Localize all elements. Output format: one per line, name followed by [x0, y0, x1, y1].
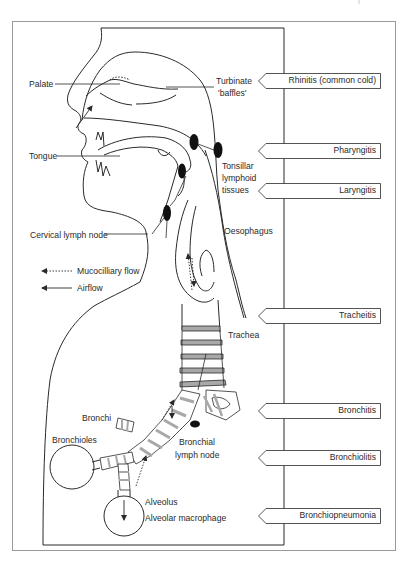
label-oesophagus: Oesophagus [224, 226, 273, 236]
disease-tag-tracheitis: Tracheitis [258, 308, 381, 323]
label-tonsillar-1: Tonsillar [222, 161, 254, 171]
disease-label: Bronchiopneumonia [300, 510, 376, 520]
label-palate: Palate [29, 79, 53, 89]
trachea-rings [180, 326, 226, 392]
disease-label: Pharyngitis [333, 145, 376, 155]
disease-tag-laryngitis: Laryngitis [258, 183, 381, 198]
disease-tag-bronchiopneumonia: Bronchiopneumonia [258, 508, 381, 523]
respiratory-diagram: Palate Turbinate 'baffles' Tongue Tonsil… [0, 0, 407, 577]
legend-mucociliary-flow: Mucocilliary flow [77, 266, 140, 276]
disease-label: Bronchiolitis [330, 452, 376, 462]
label-turbinate-2: 'baffles' [218, 88, 246, 98]
tonsil-node-3 [178, 164, 186, 179]
label-bronchial-2: lymph node [175, 450, 219, 460]
label-cervical-lymph-node: Cervical lymph node [30, 230, 108, 240]
tonsil-node-2 [214, 142, 223, 158]
label-bronchi: Bronchi [82, 413, 111, 423]
disease-tag-bronchiolitis: Bronchiolitis [258, 450, 381, 465]
label-bronchial-1: Bronchial [179, 437, 215, 447]
label-tonsillar-2: lymphoid [222, 173, 256, 183]
mouth-tongue [96, 132, 191, 222]
disease-label: Bronchitis [338, 405, 376, 415]
label-trachea: Trachea [228, 330, 259, 340]
bronchial-lymph-node-dot [190, 421, 200, 428]
label-alveolar-macrophage: Alveolar macrophage [145, 513, 226, 523]
label-tongue: Tongue [29, 151, 57, 161]
disease-label: Laryngitis [339, 185, 376, 195]
disease-tag-pharyngitis: Pharyngitis [258, 143, 381, 158]
disease-tag-bronchitis: Bronchitis [258, 403, 381, 418]
label-bronchioles: Bronchioles [52, 435, 97, 445]
tonsil-node-1 [190, 134, 199, 150]
label-alveolus: Alveolus [145, 497, 177, 507]
bronchioles-alveolus [50, 445, 94, 489]
disease-label: Rhinitis (common cold) [289, 75, 376, 85]
legend-arrows [42, 271, 72, 288]
legend-airflow: Airflow [77, 283, 103, 293]
cervical-lymph-node-dot [163, 205, 171, 221]
lymph-connections [152, 144, 214, 238]
disease-label: Tracheitis [339, 310, 376, 320]
label-tonsillar-3: tissues [222, 185, 249, 195]
label-turbinate-1: Turbinate [216, 76, 252, 86]
bronchial-tree [100, 390, 240, 490]
disease-tag-rhinitis: Rhinitis (common cold) [258, 73, 381, 88]
